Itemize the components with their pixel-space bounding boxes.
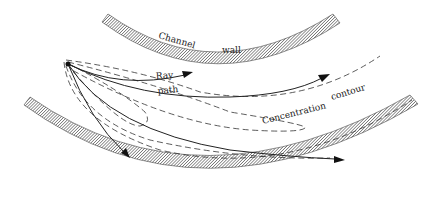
arrowhead-upper-long [318, 74, 330, 82]
arrowhead-lower-long [334, 156, 345, 163]
label-contour: contour [330, 82, 367, 102]
source-point [66, 62, 71, 67]
label-ray: Ray [155, 70, 174, 81]
ray-path-upper-long [68, 64, 322, 97]
label-concentration: Concentration [261, 100, 327, 126]
arrowhead-short [182, 71, 193, 78]
top-channel-wall [102, 14, 340, 64]
label-path: path [157, 84, 179, 96]
bottom-channel-wall [24, 95, 418, 168]
channel-diagram: Channel wall Ray path Concentration cont… [0, 0, 440, 199]
label-wall: wall [222, 45, 241, 55]
contour-inner-loop [69, 64, 148, 126]
